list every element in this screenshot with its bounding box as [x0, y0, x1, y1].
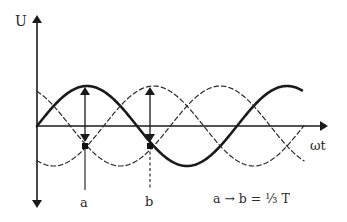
intersection-dot [147, 143, 153, 149]
marker-label-b: b [145, 195, 153, 208]
waveform-diagram [0, 0, 347, 222]
axes [37, 19, 324, 204]
x-axis-label: ωt [310, 139, 326, 152]
phase-markers [82, 91, 153, 190]
intersection-dot [82, 143, 88, 149]
period-formula: a → b = ⅓ T [213, 193, 290, 206]
y-axis-label: U [15, 14, 27, 28]
marker-label-a: a [80, 196, 88, 209]
